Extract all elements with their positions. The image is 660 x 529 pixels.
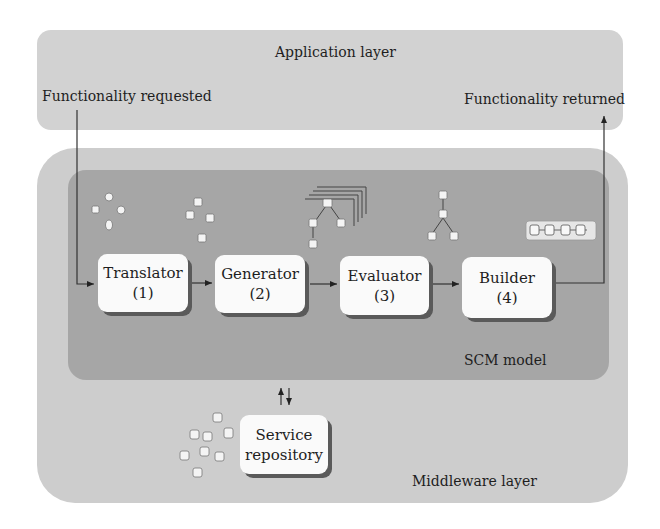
stage-name: Evaluator	[348, 266, 422, 286]
stage-index: (1)	[132, 283, 153, 303]
builder-stage: Builder (4)	[462, 257, 552, 318]
translator-stage: Translator (1)	[98, 254, 188, 312]
stage-index: (3)	[374, 286, 395, 306]
service-set-icon	[186, 198, 214, 242]
evaluator-stage: Evaluator (3)	[340, 256, 429, 315]
stacked-trees-icon	[305, 187, 366, 248]
generator-stage: Generator (2)	[215, 255, 305, 313]
service-chain-icon	[526, 221, 596, 240]
stage-name: Translator	[103, 263, 182, 283]
repository-line2: repository	[245, 445, 323, 465]
service-repository: Service repository	[240, 415, 328, 474]
scattered-nodes-icon	[92, 193, 125, 230]
tree-icon	[428, 191, 458, 240]
stage-name: Builder	[479, 268, 535, 288]
repository-line1: Service	[256, 425, 313, 445]
stage-name: Generator	[221, 264, 299, 284]
return-flow-line	[556, 116, 604, 283]
stage-index: (4)	[496, 288, 517, 308]
stage-index: (2)	[249, 284, 270, 304]
repository-services-icon	[180, 413, 233, 477]
request-flow-line	[77, 110, 94, 284]
